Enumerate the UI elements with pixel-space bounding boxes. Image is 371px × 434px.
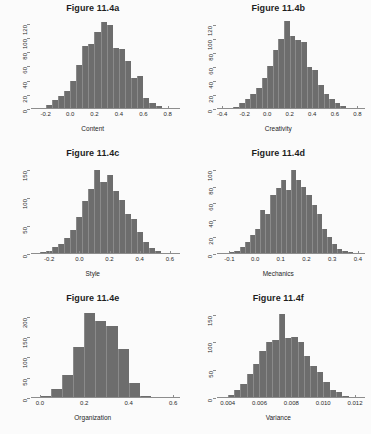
bar-series [31, 308, 178, 398]
y-tick-label: 40 [22, 82, 28, 89]
y-tick-mark [27, 109, 30, 110]
x-tick-mark [291, 395, 292, 398]
y-tick: 40 [194, 216, 216, 224]
x-tick-mark [170, 251, 171, 254]
x-tick-label: 0.006 [252, 400, 267, 406]
y-tick-mark [27, 66, 30, 67]
x-tick-label: 0.6 [166, 256, 174, 262]
y-tick-label: 80 [208, 54, 214, 61]
y-tick: 0 [8, 105, 30, 113]
x-tick-mark [110, 251, 111, 254]
histogram-panel-a: Figure 11.4a-0.20.00.20.40.60.8Content02… [0, 0, 186, 145]
plot-area [31, 18, 178, 109]
y-tick: 0 [194, 250, 216, 258]
y-tick: 200 [8, 313, 30, 321]
x-tick-label: 0.4 [308, 111, 316, 117]
y-tick: 0 [8, 250, 30, 258]
panel-title: Figure 11.4f [186, 293, 371, 303]
plot-area [31, 163, 178, 254]
plot-area [217, 308, 364, 398]
x-axis-ticks: -0.20.00.20.40.6 [31, 254, 178, 264]
x-tick-label: 0.0 [251, 256, 259, 262]
y-tick-mark [213, 53, 216, 54]
y-tick: 40 [194, 77, 216, 85]
x-axis-label: Creativity [186, 125, 371, 132]
y-tick-mark [213, 109, 216, 110]
x-tick-mark [119, 106, 120, 109]
x-tick-label: 0.4 [136, 256, 144, 262]
y-tick-mark [213, 220, 216, 221]
x-tick-label: 0.8 [164, 111, 172, 117]
y-tick: 100 [8, 34, 30, 42]
y-tick-mark [27, 357, 30, 358]
x-tick-mark [140, 251, 141, 254]
y-tick-mark [213, 95, 216, 96]
x-tick-mark [228, 395, 229, 398]
x-tick-label: -0.2 [40, 111, 50, 117]
y-tick-mark [213, 25, 216, 26]
y-tick-label: 40 [208, 221, 214, 228]
y-tick-label: 50 [22, 227, 28, 234]
y-tick-mark [27, 378, 30, 379]
y-tick-mark [27, 95, 30, 96]
y-tick: 60 [194, 199, 216, 207]
y-tick-label: 0 [22, 399, 28, 402]
x-axis-label: Style [0, 270, 186, 277]
y-tick-label: 50 [208, 371, 214, 378]
x-tick-label: 0.4 [354, 256, 362, 262]
x-tick-mark [335, 106, 336, 109]
y-tick-label: 60 [208, 68, 214, 75]
x-axis-ticks: 0.0040.0060.0080.0100.012 [217, 398, 364, 408]
x-tick-mark [358, 251, 359, 254]
x-tick-mark [245, 106, 246, 109]
histogram-panel-b: Figure 11.4b-0.4-0.20.00.20.40.60.8Creat… [186, 0, 371, 145]
y-tick: 60 [194, 63, 216, 71]
y-tick-label: 120 [22, 25, 28, 35]
x-tick-mark [312, 106, 313, 109]
y-tick-label: 50 [22, 379, 28, 386]
y-tick-label: 100 [22, 358, 28, 368]
y-tick-label: 60 [22, 67, 28, 74]
y-tick-mark [27, 254, 30, 255]
y-tick-label: 80 [22, 53, 28, 60]
histogram-panel-f: Figure 11.4f0.0040.0060.0080.0100.012Var… [186, 290, 371, 434]
y-tick: 80 [194, 183, 216, 191]
y-tick-mark [213, 370, 216, 371]
y-tick: 20 [194, 91, 216, 99]
y-tick-label: 150 [22, 171, 28, 181]
panel-title: Figure 11.4e [0, 293, 186, 303]
x-tick-mark [267, 106, 268, 109]
y-tick-label: 100 [208, 40, 214, 50]
x-tick-label: 0.8 [353, 111, 361, 117]
y-tick-mark [27, 337, 30, 338]
y-tick: 100 [194, 35, 216, 43]
panel-title: Figure 11.4d [186, 148, 371, 158]
x-tick-mark [94, 106, 95, 109]
y-tick-label: 20 [208, 238, 214, 245]
x-tick-label: -0.4 [217, 111, 227, 117]
x-axis-ticks: -0.20.00.20.40.60.8 [31, 109, 178, 119]
x-tick-label: 0.2 [105, 256, 113, 262]
x-tick-mark [357, 106, 358, 109]
y-tick-label: 0 [22, 255, 28, 258]
x-tick-mark [79, 251, 80, 254]
y-tick-label: 20 [208, 96, 214, 103]
y-tick-label: 20 [22, 96, 28, 103]
y-tick: 50 [8, 222, 30, 230]
x-tick-label: 0.2 [302, 256, 310, 262]
bar-series [31, 163, 178, 254]
x-tick-mark [255, 251, 256, 254]
x-axis-ticks: -0.4-0.20.00.20.40.60.8 [217, 109, 364, 119]
x-tick-mark [323, 395, 324, 398]
y-tick: 150 [8, 166, 30, 174]
y-tick-label: 0 [22, 110, 28, 113]
y-axis-ticks: 050100150200 [8, 308, 30, 398]
y-tick-mark [213, 187, 216, 188]
plot-area [217, 18, 364, 109]
y-tick: 40 [8, 77, 30, 85]
x-tick-label: 0.6 [169, 400, 177, 406]
x-axis-label: Organization [0, 414, 186, 421]
y-tick-label: 100 [22, 199, 28, 209]
y-tick-mark [213, 39, 216, 40]
x-tick-label: 0.6 [139, 111, 147, 117]
